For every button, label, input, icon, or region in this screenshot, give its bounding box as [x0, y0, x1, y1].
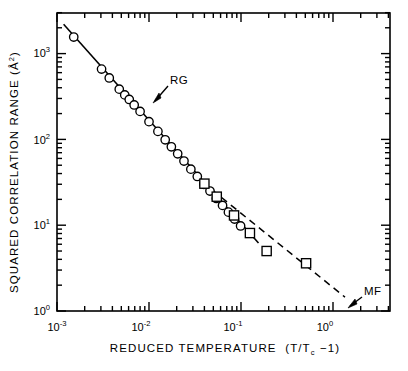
data-point-circle: [236, 222, 244, 230]
data-point-circle: [70, 33, 78, 41]
data-point-square: [262, 246, 271, 255]
data-point-square: [229, 211, 238, 220]
data-point-square: [200, 179, 209, 188]
mf-label: MF: [364, 285, 381, 297]
data-point-circle: [154, 127, 162, 135]
data-point-circle: [136, 107, 144, 115]
data-point-circle: [97, 65, 105, 73]
rg-label: RG: [170, 74, 188, 86]
data-point-circle: [145, 117, 153, 125]
data-point-circle: [161, 136, 169, 144]
data-point-square: [212, 192, 221, 201]
data-point-circle: [105, 74, 113, 82]
data-point-circle: [167, 143, 175, 151]
log-log-scatter-plot: 10-3 10-2 10-1 100 103 102 101: [0, 0, 408, 371]
data-point-square: [301, 259, 310, 268]
data-point-circle: [187, 165, 195, 173]
data-point-circle: [180, 157, 188, 165]
data-point-square: [245, 228, 254, 237]
data-point-circle: [173, 150, 181, 158]
figure-panel: 10-3 10-2 10-1 100 103 102 101: [0, 0, 408, 371]
y-axis-title: SQUARED CORRELATION RANGE (Å2): [7, 51, 20, 293]
